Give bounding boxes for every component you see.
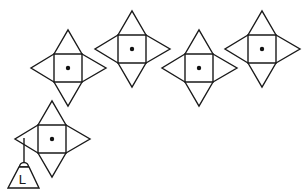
right-flap	[276, 35, 300, 63]
top-flap	[248, 11, 276, 35]
weight-label: L	[19, 172, 27, 187]
pyramid-net	[31, 30, 106, 106]
left-flap	[15, 125, 38, 153]
left-flap	[225, 35, 248, 63]
top-flap	[118, 11, 146, 35]
top-flap	[54, 30, 82, 54]
bottom-flap	[118, 63, 146, 87]
pyramid-nets	[15, 11, 300, 177]
right-flap	[66, 125, 90, 153]
center-dot	[197, 66, 201, 70]
left-flap	[95, 35, 118, 63]
right-flap	[213, 54, 237, 82]
hanging-weight: L	[8, 138, 39, 188]
center-dot	[130, 47, 134, 51]
bottom-flap	[54, 82, 82, 106]
top-flap	[185, 30, 213, 54]
pyramid-net	[225, 11, 300, 87]
center-dot	[50, 137, 54, 141]
right-flap	[82, 54, 106, 82]
diagram-canvas: L	[0, 0, 307, 195]
center-dot	[66, 66, 70, 70]
bottom-flap	[185, 82, 213, 106]
left-flap	[31, 54, 54, 82]
center-dot	[260, 47, 264, 51]
top-flap	[38, 101, 66, 125]
pyramid-net	[162, 30, 237, 106]
left-flap	[162, 54, 185, 82]
bottom-flap	[38, 153, 66, 177]
pyramid-net	[95, 11, 170, 87]
right-flap	[146, 35, 170, 63]
bottom-flap	[248, 63, 276, 87]
